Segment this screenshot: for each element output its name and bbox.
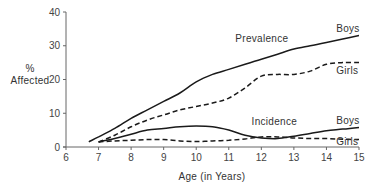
prevalence-boys-line [89,36,359,142]
x-tick-label: 6 [63,152,69,163]
incidence-boys-line [99,126,359,142]
y-axis-label-line1: % [25,63,34,74]
chart-container: 0102030406789101112131415 PrevalenceInci… [0,0,372,186]
y-axis-label-line2: Affected [11,75,50,86]
annotation-boys: Boys [336,115,359,126]
x-tick-label: 14 [321,152,333,163]
x-tick-label: 7 [96,152,102,163]
annotation-boys: Boys [336,23,359,34]
x-tick-label: 11 [224,152,235,163]
x-tick-label: 8 [128,152,134,163]
incidence-girls-line [99,137,359,142]
annotation-girls: Girls [336,65,358,76]
x-tick-label: 9 [161,152,167,163]
y-tick-label: 20 [49,74,61,85]
x-tick-label: 12 [256,152,268,163]
axes: 0102030406789101112131415 [49,7,365,164]
x-tick-label: 13 [288,152,300,163]
x-tick-label: 15 [353,152,365,163]
x-axis-label: Age (in Years) [178,171,245,182]
y-tick-label: 0 [54,142,60,153]
y-tick-label: 10 [49,108,61,119]
y-tick-label: 30 [49,40,61,51]
annotation-girls: Girls [336,136,358,147]
line-chart: 0102030406789101112131415 PrevalenceInci… [0,0,372,186]
data-lines [89,36,359,142]
x-tick-label: 10 [191,152,203,163]
annotation-prevalence: Prevalence [235,33,288,44]
annotation-incidence: Incidence [252,116,298,127]
y-tick-label: 40 [49,7,61,18]
